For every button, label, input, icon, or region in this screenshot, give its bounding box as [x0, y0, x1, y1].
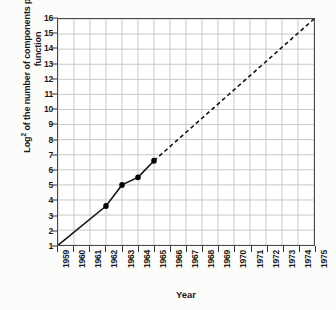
- y-tick-label: 10: [33, 104, 53, 114]
- x-tick-label: 1973: [287, 250, 297, 268]
- y-tick-label: 11: [33, 89, 53, 99]
- x-tick-label: 1975: [319, 250, 329, 268]
- y-tick-label: 5: [33, 180, 53, 190]
- y-tick-label: 15: [33, 28, 53, 38]
- x-tick-label: 1962: [109, 250, 119, 268]
- x-tick-label: 1963: [126, 250, 136, 268]
- data-point-marker: [135, 174, 141, 180]
- y-tick-label: 16: [33, 13, 53, 23]
- x-tick-label: 1961: [93, 250, 103, 268]
- x-tick-label: 1968: [206, 250, 216, 268]
- y-axis-title-base: Log: [22, 137, 32, 153]
- chart-figure: Log2 of the number of components per int…: [0, 0, 336, 310]
- y-tick-label: 9: [33, 119, 53, 129]
- x-axis-tick-labels: 1959196019611962196319641965196619671968…: [57, 250, 315, 290]
- x-tick-label: 1970: [238, 250, 248, 268]
- y-tick-label: 3: [33, 211, 53, 221]
- y-tick-label: 7: [33, 150, 53, 160]
- x-axis-title: Year: [57, 289, 315, 300]
- x-tick-label: 1965: [158, 250, 168, 268]
- y-tick-label: 6: [33, 165, 53, 175]
- x-tick-label: 1969: [222, 250, 232, 268]
- x-tick-label: 1964: [142, 250, 152, 268]
- x-tick-label: 1966: [174, 250, 184, 268]
- y-tick-label: 2: [33, 226, 53, 236]
- y-axis-title-exponent: 2: [20, 133, 27, 137]
- y-tick-label: 4: [33, 195, 53, 205]
- y-tick-label: 1: [33, 241, 53, 251]
- x-tick-label: 1974: [303, 250, 313, 268]
- x-tick-mark: [315, 246, 316, 252]
- data-point-marker: [103, 203, 109, 209]
- y-axis-tick-labels: 12345678910111213141516: [33, 18, 53, 246]
- y-tick-label: 12: [33, 74, 53, 84]
- x-tick-label: 1960: [77, 250, 87, 268]
- plot-svg: [58, 19, 314, 245]
- y-tick-label: 14: [33, 43, 53, 53]
- data-point-marker: [119, 182, 125, 188]
- plot-area: [57, 18, 315, 246]
- x-tick-label: 1971: [255, 250, 265, 268]
- y-tick-label: 8: [33, 135, 53, 145]
- x-tick-label: 1967: [190, 250, 200, 268]
- x-tick-label: 1959: [61, 250, 71, 268]
- x-tick-label: 1972: [271, 250, 281, 268]
- y-tick-label: 13: [33, 59, 53, 69]
